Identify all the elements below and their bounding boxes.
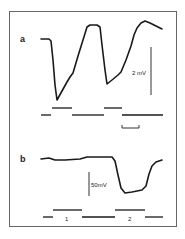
- stimulus-label-1: 1: [65, 216, 69, 222]
- scale-bar-a-label: 2 mV: [132, 70, 146, 76]
- panel-b-label: b: [20, 154, 26, 164]
- time-scale-bar: [122, 125, 139, 128]
- trace-a: [41, 21, 162, 100]
- stimulus-bars-b: [43, 210, 163, 217]
- panel-a-label: a: [20, 34, 26, 44]
- figure: a 2 mV b 50mV 1 2: [0, 0, 185, 239]
- stimulus-label-2: 2: [128, 216, 132, 222]
- figure-frame: [10, 12, 177, 227]
- scale-bar-b-label: 50mV: [91, 182, 107, 188]
- stimulus-bars-a: [41, 108, 163, 115]
